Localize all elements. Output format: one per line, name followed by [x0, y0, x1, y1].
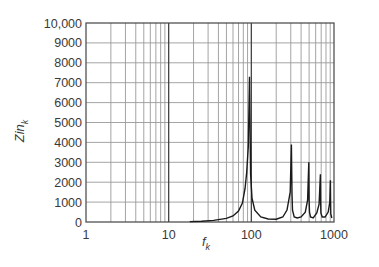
y-tick-label: 8000 — [54, 56, 82, 70]
x-tick-label: 1000 — [320, 228, 348, 242]
impedance-chart: 010002000300040005000600070008000900010,… — [0, 0, 379, 267]
x-tick-label: 1 — [83, 228, 90, 242]
y-tick-label: 3000 — [54, 156, 82, 170]
y-tick-label: 7000 — [54, 76, 82, 90]
y-tick-label: 1000 — [54, 196, 82, 210]
y-tick-label: 4000 — [54, 136, 82, 150]
y-tick-label: 10,000 — [44, 17, 82, 31]
y-axis-label: Zink — [12, 119, 30, 143]
y-tick-label: 5000 — [54, 116, 82, 130]
x-axis-ticks: 1101001000 — [83, 228, 348, 242]
x-axis-label: fk — [202, 234, 211, 252]
x-tick-label: 10 — [162, 228, 176, 242]
x-tick-label: 100 — [241, 228, 262, 242]
y-tick-label: 0 — [75, 216, 82, 230]
data-line — [190, 77, 332, 222]
grid — [86, 23, 334, 222]
y-axis-ticks: 010002000300040005000600070008000900010,… — [44, 17, 82, 230]
y-tick-label: 9000 — [54, 36, 82, 50]
y-tick-label: 6000 — [54, 96, 82, 110]
y-tick-label: 2000 — [54, 176, 82, 190]
